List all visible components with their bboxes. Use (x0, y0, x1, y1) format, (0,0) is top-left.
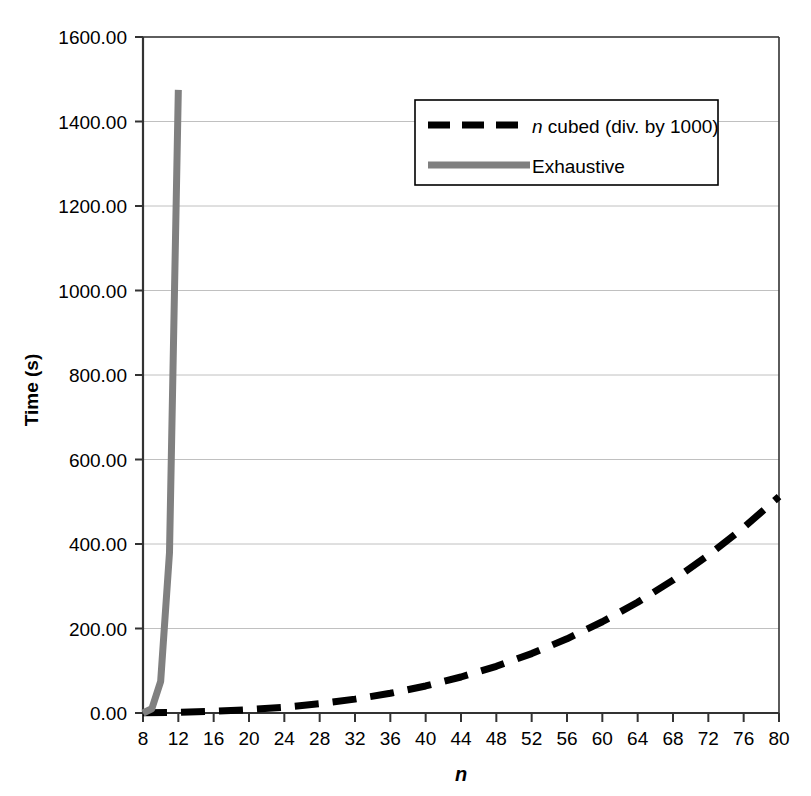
x-tick-label: 20 (238, 728, 259, 749)
x-tick-label: 64 (627, 728, 649, 749)
x-axis-title: n (455, 763, 467, 785)
x-tick-label: 16 (203, 728, 224, 749)
chart-container: 0.00200.00400.00600.00800.001000.001200.… (0, 0, 811, 796)
x-tick-label: 80 (768, 728, 789, 749)
y-tick-label: 400.00 (69, 534, 127, 555)
y-tick-label: 800.00 (69, 365, 127, 386)
chart-legend: n cubed (div. by 1000) Exhaustive (415, 100, 719, 185)
time-vs-n-line-chart: 0.00200.00400.00600.00800.001000.001200.… (0, 0, 811, 796)
x-tick-label: 72 (698, 728, 719, 749)
y-tick-label: 0.00 (90, 703, 127, 724)
x-tick-label: 28 (309, 728, 330, 749)
y-axis-title: Time (s) (21, 354, 42, 427)
y-tick-label: 1000.00 (58, 281, 127, 302)
x-tick-label: 68 (662, 728, 683, 749)
y-tick-label: 1200.00 (58, 196, 127, 217)
x-tick-label: 40 (415, 728, 436, 749)
x-tick-label: 76 (733, 728, 754, 749)
x-tick-label: 52 (521, 728, 542, 749)
x-tick-label: 60 (592, 728, 613, 749)
x-axis-title-text: n (455, 763, 467, 785)
x-tick-label: 56 (556, 728, 577, 749)
x-tick-label: 8 (138, 728, 149, 749)
x-tick-label: 36 (380, 728, 401, 749)
y-axis-title-text: Time (s) (21, 354, 42, 427)
y-tick-label: 1400.00 (58, 112, 127, 133)
y-tick-label: 600.00 (69, 450, 127, 471)
x-tick-label: 24 (274, 728, 296, 749)
y-tick-label: 200.00 (69, 619, 127, 640)
x-tick-label: 44 (450, 728, 472, 749)
y-tick-label: 1600.00 (58, 27, 127, 48)
legend-label-n-cubed: n cubed (div. by 1000) (532, 116, 719, 137)
x-tick-label: 48 (486, 728, 507, 749)
legend-label-exhaustive: Exhaustive (532, 156, 625, 177)
x-tick-label: 32 (344, 728, 365, 749)
x-tick-label: 12 (168, 728, 189, 749)
